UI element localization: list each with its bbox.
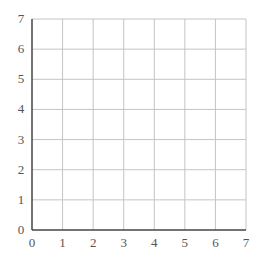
y-tick-label: 0 <box>18 222 25 237</box>
x-tick-label: 3 <box>120 235 127 250</box>
y-tick-label: 5 <box>18 71 25 86</box>
gridlines <box>32 19 246 230</box>
x-axis-tick-labels: 01234567 <box>29 235 250 250</box>
x-tick-label: 5 <box>182 235 189 250</box>
x-tick-label: 7 <box>243 235 250 250</box>
x-tick-label: 4 <box>151 235 158 250</box>
x-tick-label: 0 <box>29 235 36 250</box>
y-tick-label: 7 <box>18 11 25 26</box>
y-tick-label: 2 <box>18 162 25 177</box>
x-tick-label: 6 <box>212 235 219 250</box>
axes <box>32 19 246 230</box>
blank-grid-chart: 01234567 01234567 <box>0 0 262 263</box>
x-tick-label: 1 <box>59 235 66 250</box>
y-axis-tick-labels: 01234567 <box>18 11 25 237</box>
y-tick-label: 1 <box>18 192 25 207</box>
y-tick-label: 6 <box>18 41 25 56</box>
x-tick-label: 2 <box>90 235 97 250</box>
y-tick-label: 3 <box>18 132 25 147</box>
y-tick-label: 4 <box>18 101 25 116</box>
